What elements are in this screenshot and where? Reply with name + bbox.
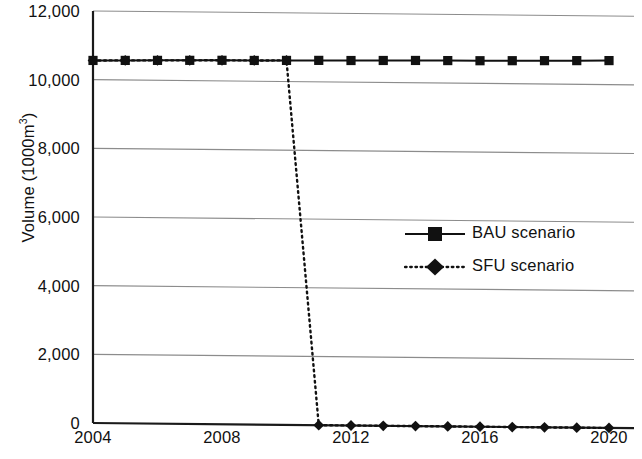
data-point-marker [443, 56, 452, 65]
data-point-marker [604, 423, 615, 434]
data-point-marker [346, 56, 355, 65]
data-point-marker [507, 422, 518, 433]
legend-item-sfu[interactable]: SFU scenario [404, 255, 619, 288]
data-point-marker [508, 56, 517, 65]
data-point-marker [442, 421, 453, 432]
gridline [93, 11, 634, 16]
chart-figure: Volume (1000m3) 02,0004,0006,0008,00010,… [0, 0, 642, 459]
legend-sample-diamond-dotted [404, 255, 466, 279]
gridline [93, 80, 634, 85]
data-point-marker [411, 56, 420, 65]
gridlines [93, 11, 634, 360]
data-point-marker [313, 420, 324, 431]
gridline [93, 354, 634, 359]
data-point-marker [379, 56, 388, 65]
legend-label-bau: BAU scenario [472, 223, 575, 242]
data-point-marker [346, 420, 357, 431]
data-point-marker [572, 56, 581, 65]
gridline [93, 148, 634, 153]
data-point-marker [539, 422, 550, 433]
legend-label-sfu: SFU scenario [472, 256, 574, 275]
data-point-marker [475, 421, 486, 432]
data-point-marker [540, 56, 549, 65]
chart-legend: BAU scenario SFU scenario [404, 222, 619, 288]
data-point-marker [410, 421, 421, 432]
data-point-marker [378, 420, 389, 431]
legend-sample-square-solid [404, 222, 466, 246]
data-point-marker [604, 56, 613, 65]
data-point-marker [314, 56, 323, 65]
legend-item-bau[interactable]: BAU scenario [404, 222, 619, 255]
data-point-marker [475, 56, 484, 65]
data-point-marker [571, 422, 582, 433]
